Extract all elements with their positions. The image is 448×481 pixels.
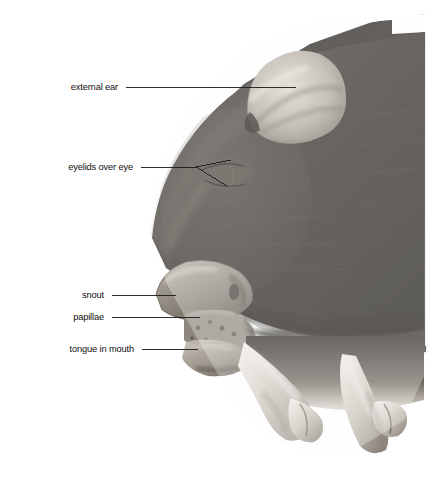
annotation-label-external-ear: external ear [71, 82, 118, 93]
anatomy-figure [0, 0, 448, 481]
print-right-edge [425, 16, 428, 346]
photograph-canvas [0, 0, 448, 481]
annotation-label-snout: snout [82, 290, 104, 301]
annotation-label-eyelids-over-eye: eyelids over eye [68, 162, 133, 173]
annotation-label-papillae: papillae [73, 312, 104, 323]
annotation-label-tongue-in-mouth: tongue in mouth [70, 344, 134, 355]
